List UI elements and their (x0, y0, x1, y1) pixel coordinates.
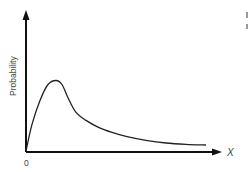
edge-mark (246, 12, 248, 18)
chart: Probability X 0 (0, 0, 248, 172)
x-axis-label: X (226, 147, 234, 158)
y-axis-label: Probability (8, 56, 18, 96)
y-axis-arrowhead (23, 10, 30, 20)
series-line-probability-distribution (26, 81, 206, 151)
x-axis-arrowhead (212, 149, 222, 156)
x-tick-label-0: 0 (24, 158, 29, 168)
edge-mark (246, 24, 248, 29)
